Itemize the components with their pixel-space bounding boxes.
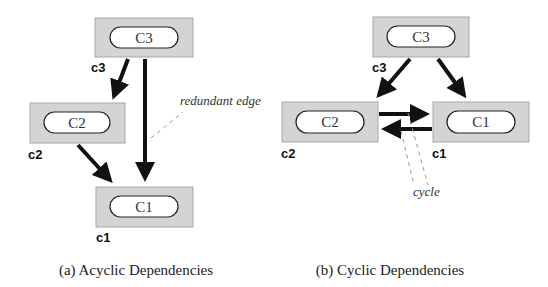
svg-text:C3: C3 bbox=[135, 30, 153, 46]
subfigure-acyclic: redundant edge C3 c3 C2 c2 C1 c1 (a) Acy… bbox=[28, 18, 261, 279]
caption-acyclic: (a) Acyclic Dependencies bbox=[59, 262, 213, 279]
redundant-edge-label: redundant edge bbox=[180, 93, 261, 108]
svg-text:C3: C3 bbox=[412, 29, 430, 45]
caption-cyclic: (b) Cyclic Dependencies bbox=[316, 262, 464, 279]
node-c3: C3 c3 bbox=[91, 18, 193, 75]
redundant-edge-pointer bbox=[151, 112, 183, 138]
node-c3: C3 c3 bbox=[372, 17, 469, 75]
cycle-pointer-1 bbox=[408, 113, 428, 185]
svg-text:C2: C2 bbox=[68, 115, 86, 131]
svg-text:c3: c3 bbox=[372, 60, 386, 75]
node-c1: C1 c1 bbox=[432, 102, 529, 161]
svg-text:c3: c3 bbox=[91, 60, 105, 75]
edge-c2-to-c1 bbox=[78, 145, 110, 180]
node-c2: C2 c2 bbox=[281, 102, 378, 161]
svg-text:c2: c2 bbox=[281, 146, 295, 161]
cycle-pointer-2 bbox=[401, 131, 414, 185]
svg-text:c1: c1 bbox=[432, 146, 446, 161]
svg-text:C1: C1 bbox=[472, 114, 490, 130]
node-c1: C1 c1 bbox=[96, 187, 193, 245]
svg-text:c2: c2 bbox=[28, 147, 42, 162]
svg-text:c1: c1 bbox=[96, 230, 110, 245]
cycle-label: cycle bbox=[413, 184, 440, 199]
node-c2: C2 c2 bbox=[28, 103, 125, 162]
dependency-diagram: redundant edge C3 c3 C2 c2 C1 c1 (a) Acy… bbox=[0, 0, 548, 287]
svg-text:C2: C2 bbox=[321, 114, 339, 130]
edge-c3-to-c2 bbox=[114, 59, 128, 96]
svg-text:C1: C1 bbox=[135, 199, 153, 215]
subfigure-cyclic: cycle C3 c3 C2 c2 C1 c1 (b) Cyclic Depen… bbox=[281, 17, 529, 279]
edge-c3-to-c1 bbox=[438, 59, 464, 95]
